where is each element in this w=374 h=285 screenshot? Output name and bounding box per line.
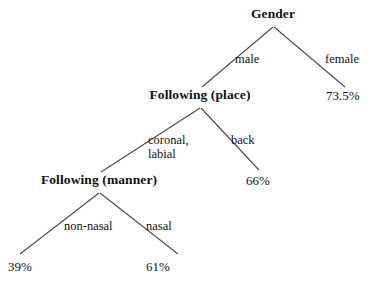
tree-node-following-manner: Following (manner) (41, 172, 157, 187)
edge-label-coronal-labial: coronal, labial (148, 134, 189, 161)
edge-label-female: female (325, 53, 359, 67)
edge-label-non-nasal: non-nasal (64, 220, 113, 234)
edge-label-nasal: nasal (146, 220, 172, 234)
decision-tree-figure: Gender Following (place) Following (mann… (0, 0, 374, 285)
tree-leaf-back-value: 66% (246, 174, 270, 188)
tree-node-gender: Gender (251, 6, 295, 21)
edge-label-male: male (235, 53, 259, 67)
tree-node-following-place: Following (place) (149, 87, 250, 102)
tree-leaf-female-value: 73.5% (326, 89, 360, 103)
tree-leaf-nasal-value: 61% (146, 260, 170, 274)
tree-leaf-non-nasal-value: 39% (8, 260, 32, 274)
edge-label-back: back (231, 134, 255, 148)
